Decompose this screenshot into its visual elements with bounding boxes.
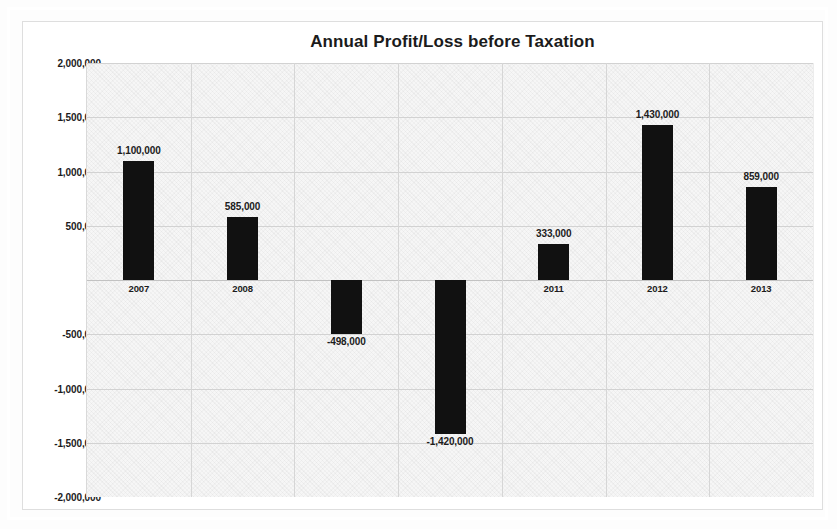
bar-value-label-2008: 585,000 (225, 201, 260, 212)
gridline-horizontal (87, 117, 813, 118)
x-axis-category-label-2012: 2012 (647, 283, 668, 294)
bar-value-label-2010: -1,420,000 (427, 436, 474, 447)
bar-value-label-2007: 1,100,000 (117, 145, 161, 156)
x-axis-category-label-2008: 2008 (232, 283, 253, 294)
gridline-vertical (294, 63, 295, 497)
bar-2007[interactable] (123, 161, 154, 280)
chart-title: Annual Profit/Loss before Taxation (23, 32, 822, 52)
bar-2013[interactable] (746, 187, 777, 280)
gridline-vertical (606, 63, 607, 497)
bar-2008[interactable] (227, 217, 258, 280)
gridline-vertical (191, 63, 192, 497)
gridline-vertical (398, 63, 399, 497)
gridline-horizontal (87, 63, 813, 64)
bar-2009[interactable] (331, 280, 362, 334)
bar-value-label-2013: 859,000 (743, 171, 778, 182)
bar-value-label-2011: 333,000 (536, 228, 571, 239)
bar-2012[interactable] (642, 125, 673, 280)
x-axis-category-label-2013: 2013 (751, 283, 772, 294)
chart-frame: Annual Profit/Loss before Taxation 2,000… (22, 21, 823, 510)
bar-value-label-2009: -498,000 (327, 336, 366, 347)
x-axis-category-label-2011: 2011 (544, 283, 564, 294)
bar-value-label-2012: 1,430,000 (636, 109, 680, 120)
chart-screenshot: Annual Profit/Loss before Taxation 2,000… (0, 0, 837, 529)
bar-2010[interactable] (435, 280, 466, 434)
gridline-horizontal (87, 226, 813, 227)
gridline-vertical (502, 63, 503, 497)
plot-area: 1,100,0002007585,0002008-498,0002009-1,4… (86, 63, 814, 497)
bar-2011[interactable] (538, 244, 569, 280)
gridline-vertical (709, 63, 710, 497)
x-axis-category-label-2007: 2007 (128, 283, 149, 294)
gridline-horizontal (87, 172, 813, 173)
